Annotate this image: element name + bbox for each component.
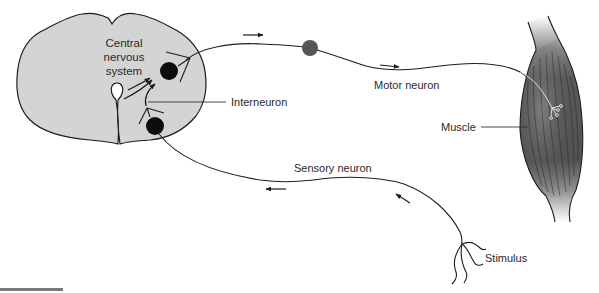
cns-label-line2: nervous bbox=[104, 51, 145, 63]
motor-ganglion bbox=[302, 40, 318, 56]
motor-arrow-2 bbox=[380, 65, 399, 67]
muscle-label: Muscle bbox=[441, 121, 476, 133]
sensory-receptor-endings bbox=[452, 242, 486, 284]
cns-shape bbox=[17, 13, 206, 144]
sensory-neuron-label: Sensory neuron bbox=[294, 162, 372, 174]
central-nervous-system: Central nervous system bbox=[17, 13, 206, 144]
sensory-arrow-2 bbox=[396, 194, 410, 203]
muscle-shine bbox=[520, 38, 583, 198]
reflex-arc-diagram: Central nervous system Interneuron Motor… bbox=[0, 0, 599, 293]
cns-label-line3: system bbox=[106, 65, 142, 77]
cns-label-line1: Central bbox=[105, 37, 142, 49]
muscle bbox=[520, 16, 583, 222]
stimulus-label: Stimulus bbox=[485, 252, 528, 264]
sensory-neuron-axon bbox=[159, 134, 462, 244]
interneuron-label: Interneuron bbox=[231, 96, 287, 108]
motor-neuron-axon bbox=[186, 44, 541, 104]
motor-neuron-label: Motor neuron bbox=[374, 79, 439, 91]
divider-bar bbox=[0, 288, 63, 291]
